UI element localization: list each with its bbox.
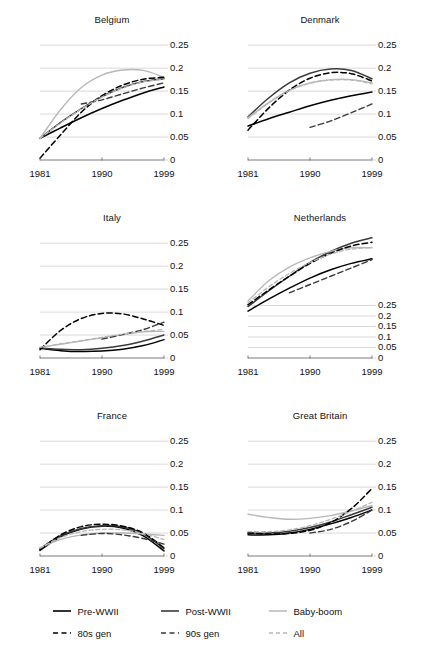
svg-text:0.2: 0.2 — [170, 458, 183, 469]
svg-text:0.05: 0.05 — [378, 527, 397, 538]
svg-text:0.25: 0.25 — [170, 435, 189, 446]
svg-text:0.25: 0.25 — [170, 39, 189, 50]
svg-text:1990: 1990 — [91, 564, 112, 575]
legend-label: Pre-WWII — [78, 606, 119, 617]
chart-figure: Belgium 00.050.10.150.20.25198119901999 … — [0, 0, 427, 657]
svg-text:1990: 1990 — [91, 168, 112, 179]
svg-text:0: 0 — [378, 550, 383, 561]
legend-item-pre-wwii[interactable]: Pre-WWII — [52, 606, 160, 617]
panel-great-britain: Great Britain 00.050.10.150.20.251981199… — [222, 410, 418, 590]
legend-label: All — [294, 628, 305, 639]
panel-title: France — [14, 410, 210, 422]
svg-text:1999: 1999 — [153, 564, 174, 575]
legend-label: Baby-boom — [294, 606, 343, 617]
chart-legend: Pre-WWII Post-WWII Baby-boom 80s gen 90s… — [0, 600, 427, 644]
svg-text:0.2: 0.2 — [170, 62, 183, 73]
svg-text:0.05: 0.05 — [170, 131, 189, 142]
panel-title: Denmark — [222, 14, 418, 26]
svg-text:0.15: 0.15 — [170, 481, 189, 492]
svg-text:0: 0 — [170, 352, 175, 363]
svg-text:1981: 1981 — [29, 564, 50, 575]
plot-area: 00.050.10.150.20.25198119901999 — [222, 226, 418, 392]
panel-italy: Italy 00.050.10.150.20.25198119901999 — [14, 212, 210, 392]
legend-item-all[interactable]: All — [268, 628, 376, 639]
legend-item-80s-gen[interactable]: 80s gen — [52, 628, 160, 639]
svg-text:0.05: 0.05 — [170, 329, 189, 340]
panel-title: Netherlands — [222, 212, 418, 224]
svg-text:0.25: 0.25 — [378, 299, 397, 310]
svg-text:0.1: 0.1 — [378, 504, 391, 515]
svg-text:0.25: 0.25 — [378, 39, 397, 50]
panel-denmark: Denmark 00.050.10.150.20.25198119901999 — [222, 14, 418, 194]
svg-text:0: 0 — [170, 154, 175, 165]
line-solid-icon — [268, 606, 288, 616]
plot-area: 00.050.10.150.20.25198119901999 — [14, 424, 210, 590]
svg-text:0.15: 0.15 — [378, 481, 397, 492]
svg-text:1999: 1999 — [361, 168, 382, 179]
svg-text:1999: 1999 — [153, 168, 174, 179]
line-dashed-icon — [160, 628, 180, 638]
plot-area: 00.050.10.150.20.25198119901999 — [14, 28, 210, 194]
svg-text:0: 0 — [378, 352, 383, 363]
svg-text:0.05: 0.05 — [170, 527, 189, 538]
line-solid-icon — [160, 606, 180, 616]
svg-text:1981: 1981 — [237, 564, 258, 575]
svg-text:0.25: 0.25 — [170, 237, 189, 248]
svg-text:0.1: 0.1 — [378, 108, 391, 119]
svg-text:0.05: 0.05 — [378, 131, 397, 142]
line-dashed-icon — [268, 628, 288, 638]
legend-label: 80s gen — [78, 628, 112, 639]
svg-text:0: 0 — [170, 550, 175, 561]
legend-row-bottom: 80s gen 90s gen All — [0, 622, 427, 644]
svg-text:1990: 1990 — [299, 168, 320, 179]
svg-text:1990: 1990 — [91, 366, 112, 377]
panel-title: Italy — [14, 212, 210, 224]
svg-text:0.15: 0.15 — [378, 85, 397, 96]
panel-title: Belgium — [14, 14, 210, 26]
svg-text:1999: 1999 — [361, 366, 382, 377]
svg-text:1999: 1999 — [361, 564, 382, 575]
svg-text:0.05: 0.05 — [378, 341, 397, 352]
svg-text:1999: 1999 — [153, 366, 174, 377]
svg-text:0.15: 0.15 — [378, 320, 397, 331]
legend-label: 90s gen — [186, 628, 220, 639]
plot-area: 00.050.10.150.20.25198119901999 — [14, 226, 210, 392]
panel-netherlands: Netherlands 00.050.10.150.20.25198119901… — [222, 212, 418, 392]
line-dashed-icon — [52, 628, 72, 638]
svg-text:0.2: 0.2 — [378, 310, 391, 321]
svg-text:0.2: 0.2 — [378, 458, 391, 469]
svg-text:0.1: 0.1 — [378, 331, 391, 342]
panel-france: France 00.050.10.150.20.25198119901999 — [14, 410, 210, 590]
svg-text:0.15: 0.15 — [170, 283, 189, 294]
svg-text:0: 0 — [378, 154, 383, 165]
svg-text:1981: 1981 — [29, 168, 50, 179]
panel-title: Great Britain — [222, 410, 418, 422]
panel-belgium: Belgium 00.050.10.150.20.25198119901999 — [14, 14, 210, 194]
line-solid-icon — [52, 606, 72, 616]
plot-area: 00.050.10.150.20.25198119901999 — [222, 424, 418, 590]
svg-text:1981: 1981 — [237, 168, 258, 179]
svg-text:0.1: 0.1 — [170, 108, 183, 119]
svg-text:1981: 1981 — [29, 366, 50, 377]
svg-text:0.2: 0.2 — [378, 62, 391, 73]
svg-text:0.1: 0.1 — [170, 504, 183, 515]
legend-item-90s-gen[interactable]: 90s gen — [160, 628, 268, 639]
svg-text:0.25: 0.25 — [378, 435, 397, 446]
legend-label: Post-WWII — [186, 606, 231, 617]
svg-text:1990: 1990 — [299, 564, 320, 575]
svg-text:1990: 1990 — [299, 366, 320, 377]
plot-area: 00.050.10.150.20.25198119901999 — [222, 28, 418, 194]
svg-text:0.2: 0.2 — [170, 260, 183, 271]
legend-row-top: Pre-WWII Post-WWII Baby-boom — [0, 600, 427, 622]
svg-text:0.1: 0.1 — [170, 306, 183, 317]
svg-text:0.15: 0.15 — [170, 85, 189, 96]
svg-text:1981: 1981 — [237, 366, 258, 377]
legend-item-post-wwii[interactable]: Post-WWII — [160, 606, 268, 617]
legend-item-baby-boom[interactable]: Baby-boom — [268, 606, 376, 617]
